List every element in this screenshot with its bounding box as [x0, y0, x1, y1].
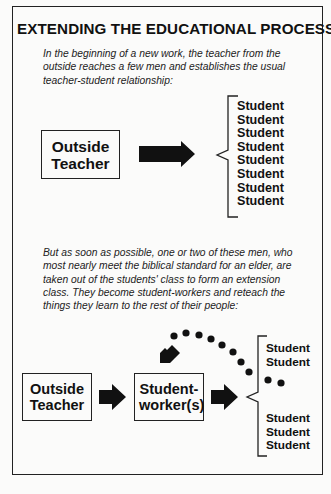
diagram-graphics — [0, 0, 331, 494]
path-dot — [229, 348, 236, 355]
path-dot — [277, 379, 284, 386]
path-dot — [245, 368, 252, 375]
path-dot — [218, 341, 225, 348]
path-dot — [170, 332, 177, 339]
right-arrow-icon — [211, 384, 238, 410]
path-dot — [207, 335, 214, 342]
right-arrow-icon — [99, 384, 126, 410]
left-brace-icon — [217, 96, 238, 217]
path-dot — [195, 331, 202, 338]
right-arrow-icon — [139, 141, 195, 167]
path-dot — [237, 358, 244, 365]
dotted-curved-arrow-icon — [160, 329, 285, 386]
path-dot — [182, 329, 189, 336]
down-left-arrowhead — [160, 345, 180, 363]
left-brace-icon — [247, 336, 267, 456]
path-dot — [264, 376, 271, 383]
